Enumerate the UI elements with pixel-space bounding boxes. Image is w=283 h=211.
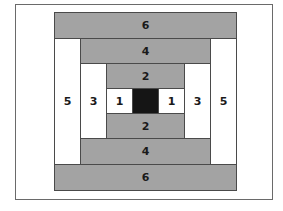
strip-5-left: 5 <box>54 38 81 165</box>
strip-6-top: 6 <box>54 12 237 39</box>
strip-5-right: 5 <box>210 38 237 165</box>
strip-2-bottom: 2 <box>106 113 185 139</box>
strip-4-top: 4 <box>80 38 211 64</box>
strip-6-bottom: 6 <box>54 164 237 191</box>
strip-1-left: 1 <box>106 88 133 114</box>
strip-4-bottom: 4 <box>80 138 211 165</box>
center-square <box>132 88 159 114</box>
strip-3-left: 3 <box>80 63 107 139</box>
strip-2-top: 2 <box>106 63 185 89</box>
strip-3-right: 3 <box>184 63 211 139</box>
strip-1-right: 1 <box>158 88 185 114</box>
